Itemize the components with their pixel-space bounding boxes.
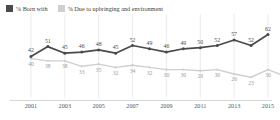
legend-swatch-upbringing: [58, 5, 65, 12]
x-axis-tick-label: 2009: [160, 102, 172, 109]
svg-text:51: 51: [45, 38, 51, 44]
legend-label-born-with: % Born with: [16, 5, 48, 12]
svg-text:32: 32: [147, 70, 153, 76]
x-axis-tick-label: 2007: [126, 102, 138, 109]
svg-text:33: 33: [79, 69, 85, 75]
legend-swatch-born-with: [6, 5, 13, 12]
svg-text:35: 35: [96, 67, 102, 73]
svg-text:46: 46: [164, 43, 170, 49]
svg-text:45: 45: [113, 44, 119, 50]
legend-item-upbringing: % Due to upbringing and environment: [58, 5, 163, 12]
svg-text:32: 32: [113, 70, 119, 76]
svg-text:30: 30: [164, 72, 170, 78]
svg-text:52: 52: [130, 37, 136, 43]
svg-text:38: 38: [45, 63, 51, 69]
svg-text:23: 23: [248, 80, 254, 86]
svg-text:26: 26: [231, 76, 237, 82]
svg-text:40: 40: [28, 61, 34, 67]
svg-text:48: 48: [96, 41, 102, 47]
svg-text:49: 49: [180, 40, 186, 46]
x-axis-line: [10, 100, 272, 101]
svg-text:52: 52: [248, 37, 254, 43]
svg-text:57: 57: [231, 31, 237, 37]
chart-legend: % Born with % Due to upbringing and envi…: [6, 2, 163, 14]
svg-text:52: 52: [214, 37, 220, 43]
x-axis-tick-label: 2003: [59, 102, 71, 109]
x-axis-tick-label: 2015: [262, 102, 274, 109]
gridlines: [31, 14, 268, 98]
x-axis-tick-label: 2011: [194, 102, 206, 109]
x-axis-tick-label: 2013: [228, 102, 240, 109]
svg-text:45: 45: [62, 44, 68, 50]
x-axis: 20012003200520072009201120132015: [0, 100, 280, 116]
svg-text:29: 29: [197, 73, 203, 79]
line-chart: % Born with % Due to upbringing and envi…: [0, 0, 280, 120]
svg-text:50: 50: [197, 39, 203, 45]
svg-text:30: 30: [181, 72, 187, 78]
svg-text:30: 30: [214, 72, 220, 78]
svg-text:30: 30: [265, 72, 271, 78]
x-axis-tick-label: 2001: [25, 102, 37, 109]
svg-text:46: 46: [79, 43, 85, 49]
legend-item-born-with: % Born with: [6, 5, 48, 12]
data-labels-upbringing: 40383833353234323030293026233024: [28, 61, 280, 86]
svg-text:38: 38: [62, 63, 68, 69]
legend-label-upbringing: % Due to upbringing and environment: [68, 5, 163, 12]
plot-area: 40383833353234323030293026233024 4251454…: [0, 14, 280, 98]
svg-text:49: 49: [147, 40, 153, 46]
x-axis-tick-label: 2005: [92, 102, 104, 109]
svg-text:42: 42: [28, 47, 34, 53]
svg-text:62: 62: [265, 26, 271, 32]
svg-text:34: 34: [130, 68, 136, 74]
